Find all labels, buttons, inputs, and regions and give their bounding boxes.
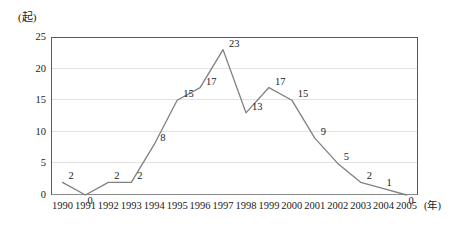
y-axis-unit-label: (起)	[18, 11, 36, 24]
x-axis-tick-labels: 1990199119921993199419951996199719981999…	[0, 200, 466, 216]
x-tick-1999: 1999	[258, 200, 279, 212]
y-tick-0: 0	[12, 189, 46, 200]
x-tick-2000: 2000	[281, 200, 302, 212]
y-tick-15: 15	[12, 94, 46, 105]
y-tick-20: 20	[12, 63, 46, 74]
x-tick-1997: 1997	[213, 200, 234, 212]
x-tick-1993: 1993	[121, 200, 142, 212]
x-tick-1994: 1994	[144, 200, 165, 212]
x-tick-2001: 2001	[304, 200, 325, 212]
series-line	[51, 37, 418, 195]
x-tick-1991: 1991	[75, 200, 96, 212]
x-tick-1995: 1995	[167, 200, 188, 212]
x-tick-2005: 2005	[396, 200, 417, 212]
chart-page: (起) 0 5 10 15 20 25 19901991199219931994…	[0, 0, 466, 229]
x-tick-2002: 2002	[327, 200, 348, 212]
y-tick-25: 25	[12, 31, 46, 42]
x-tick-1998: 1998	[235, 200, 256, 212]
x-tick-1990: 1990	[52, 200, 73, 212]
line-chart-figure: (起) 0 5 10 15 20 25 19901991199219931994…	[0, 0, 466, 229]
plot-area	[51, 37, 418, 195]
y-tick-10: 10	[12, 126, 46, 137]
x-tick-2004: 2004	[373, 200, 394, 212]
x-tick-1996: 1996	[190, 200, 211, 212]
x-tick-2003: 2003	[350, 200, 371, 212]
x-tick-1992: 1992	[98, 200, 119, 212]
x-axis-unit-label: (年)	[424, 200, 441, 212]
y-axis-tick-labels: 0 5 10 15 20 25	[8, 37, 46, 195]
y-tick-5: 5	[12, 157, 46, 168]
